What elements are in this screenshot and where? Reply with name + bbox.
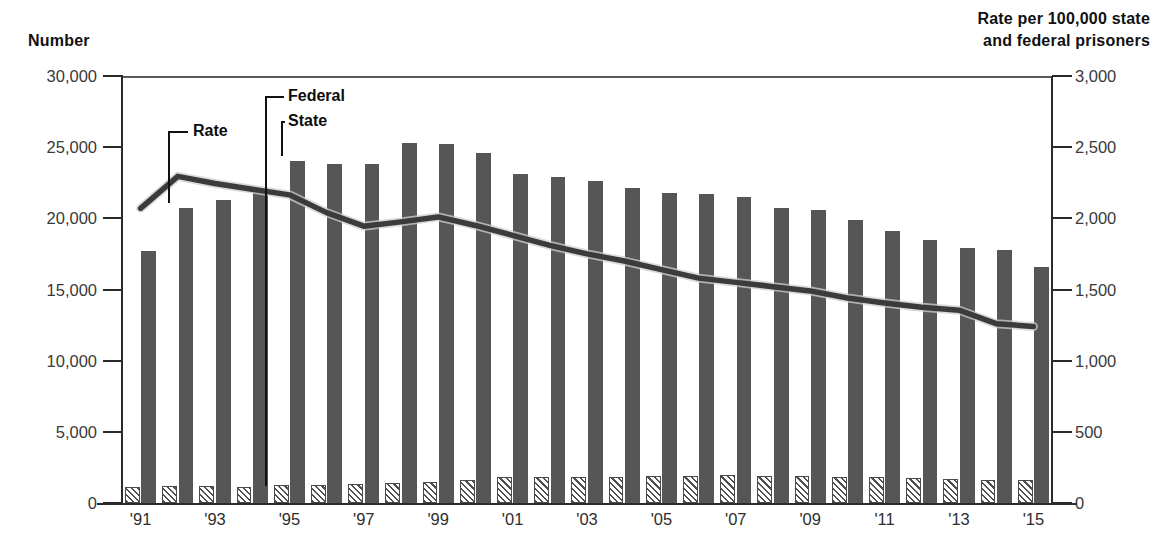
right-axis-tick-mark (1052, 431, 1072, 433)
x-axis-tick-label: '91 (130, 510, 152, 529)
right-axis-tick-mark (1052, 289, 1072, 291)
right-axis-tick-label: 1,500 (1075, 280, 1116, 299)
left-axis-tick-mark (103, 360, 123, 362)
right-axis-tick-label: 2,500 (1075, 138, 1116, 157)
x-axis-tick-label: '93 (204, 510, 226, 529)
rate-line-series (122, 76, 1052, 503)
x-axis-tick-label: '11 (874, 510, 894, 529)
left-axis-tick-label: 10,000 (7, 351, 97, 370)
x-axis-tick-label: '05 (651, 510, 673, 529)
left-axis-tick-mark (103, 289, 123, 291)
left-axis-tick-label: 30,000 (7, 67, 97, 86)
chart-root: Number Rate per 100,000 state and federa… (0, 0, 1164, 556)
left-axis-tick-mark (103, 502, 123, 504)
right-axis-tick-mark (1052, 360, 1072, 362)
callout-rate-leader-vertical (168, 131, 170, 203)
x-axis-tick-label: '99 (427, 510, 449, 529)
left-axis-tick-label: 25,000 (7, 138, 97, 157)
left-axis-tick-mark (103, 217, 123, 219)
x-axis-line (97, 503, 1077, 505)
callout-federal-leader-horizontal (265, 96, 284, 98)
left-axis-tick-label: 15,000 (7, 280, 97, 299)
right-axis-tick-label: 3,000 (1075, 67, 1116, 86)
right-axis-tick-mark (1052, 75, 1072, 77)
right-axis-title: Rate per 100,000 state and federal priso… (977, 8, 1150, 51)
x-axis-tick-label: '13 (948, 510, 970, 529)
x-axis-tick-label: '09 (799, 510, 821, 529)
left-axis-tick-mark (103, 431, 123, 433)
callout-rate-leader-horizontal (168, 131, 188, 133)
right-axis-tick-label: 0 (1075, 494, 1084, 513)
x-axis-tick-label: '15 (1023, 510, 1045, 529)
callout-federal-label: Federal (288, 87, 345, 105)
callout-rate-label: Rate (193, 122, 228, 140)
x-axis-tick-label: '95 (279, 510, 301, 529)
x-axis-tick-label: '07 (725, 510, 747, 529)
x-axis-tick-label: '01 (502, 510, 524, 529)
callout-federal-leader-vertical (265, 96, 267, 486)
left-axis-tick-mark (103, 146, 123, 148)
right-axis-tick-label: 500 (1075, 422, 1103, 441)
left-axis-tick-mark (103, 75, 123, 77)
x-axis-tick-label: '03 (576, 510, 598, 529)
right-axis-tick-mark (1052, 217, 1072, 219)
right-axis-tick-mark (1052, 146, 1072, 148)
callout-state-leader-vertical (281, 121, 283, 156)
callout-state-label: State (288, 112, 327, 130)
left-axis-tick-label: 20,000 (7, 209, 97, 228)
x-axis-tick-label: '97 (353, 510, 375, 529)
right-axis-tick-label: 1,000 (1075, 351, 1116, 370)
right-axis-tick-label: 2,000 (1075, 209, 1116, 228)
right-axis-tick-mark (1052, 502, 1072, 504)
left-axis-title: Number (28, 32, 90, 50)
left-axis-tick-label: 5,000 (7, 422, 97, 441)
left-axis-tick-label: 0 (7, 494, 97, 513)
